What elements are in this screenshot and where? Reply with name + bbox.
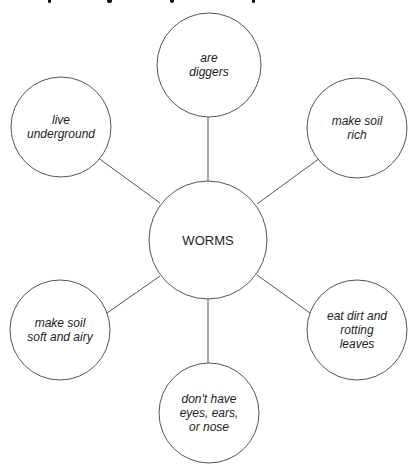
bubble-label-top: are diggers xyxy=(165,13,253,117)
bubble-label-bottom: don't have eyes, ears, or nose xyxy=(167,363,251,463)
connector-line-lower-left xyxy=(107,276,160,313)
bubble-label-lower-left: make soil soft and airy xyxy=(18,280,102,380)
connector-line-lower-right xyxy=(257,275,310,313)
bubble-label-upper-right: make soil rich xyxy=(315,78,399,178)
connector-line-upper-right xyxy=(257,158,320,204)
center-bubble-label: WORMS xyxy=(157,181,259,299)
bubble-label-upper-left: live underground xyxy=(19,77,103,177)
connector-line-upper-left xyxy=(97,157,160,203)
concept-web-diagram: WORMS are diggers live underground make … xyxy=(0,0,416,475)
bubble-label-lower-right: eat dirt and rotting leaves xyxy=(315,280,399,380)
